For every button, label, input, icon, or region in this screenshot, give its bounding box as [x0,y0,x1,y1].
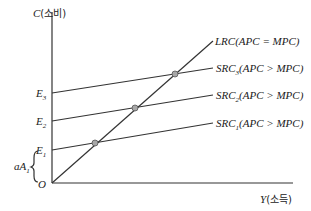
src1-line [52,123,213,150]
y-axis-label: C(소비) [33,7,66,19]
src2-label: SRC2(APC > MPC) [216,89,304,104]
x-axis-label: Y(소득) [260,193,292,205]
src3-label: SRC3(APC > MPC) [216,62,304,77]
lrc-line [52,41,213,183]
consumption-function-diagram: C(소비) Y(소득) O E3 E2 E1 aA1 LRC(APC = MPC… [0,0,311,211]
bracket-label: aA1 [14,160,30,175]
src3-line [52,68,213,93]
e2-label: E2 [35,115,47,130]
intersection-point-2 [132,105,138,111]
lrc-label: LRC(APC = MPC) [214,35,300,48]
e3-label: E3 [35,87,47,102]
intersection-point-3 [172,71,178,77]
origin-label: O [38,178,46,190]
intersection-point-1 [92,140,98,146]
src1-label: SRC1(APC > MPC) [216,117,304,132]
